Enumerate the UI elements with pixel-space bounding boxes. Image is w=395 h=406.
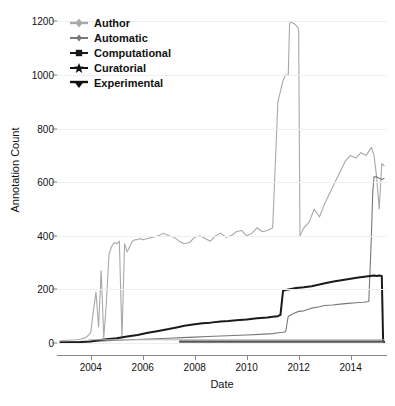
legend-marker-icon xyxy=(68,17,90,29)
legend-marker-icon xyxy=(68,62,90,74)
x-tick-label: 2010 xyxy=(236,362,258,373)
gridline xyxy=(57,289,387,290)
legend-item[interactable]: Curatorial xyxy=(68,61,171,75)
y-tick-label: 200 xyxy=(20,284,54,295)
y-tick-label: 600 xyxy=(20,177,54,188)
chart-figure: Annotation Count 020040060080010001200 2… xyxy=(0,0,395,406)
gridline xyxy=(57,236,387,237)
legend-marker-icon xyxy=(68,32,90,44)
legend-item[interactable]: Computational xyxy=(68,46,171,60)
y-tick-label: 400 xyxy=(20,230,54,241)
y-axis-tick-labels: 020040060080010001200 xyxy=(18,0,54,406)
gridline xyxy=(57,129,387,130)
y-tick-label: 800 xyxy=(20,123,54,134)
y-tick-label: 0 xyxy=(20,338,54,349)
x-tick-label: 2006 xyxy=(132,362,154,373)
legend-label: Computational xyxy=(94,47,171,59)
x-tick-mark xyxy=(299,355,300,360)
x-axis-tick-labels: 200420062008201020122014 xyxy=(57,362,387,378)
x-tick-mark xyxy=(143,355,144,360)
gridline xyxy=(57,182,387,183)
gridline xyxy=(57,343,387,344)
y-tick-label: 1000 xyxy=(20,70,54,81)
x-tick-label: 2004 xyxy=(80,362,102,373)
x-axis-tick-marks xyxy=(57,355,387,361)
legend-label: Author xyxy=(94,17,130,29)
x-tick-label: 2008 xyxy=(184,362,206,373)
legend-label: Automatic xyxy=(94,32,148,44)
legend-label: Experimental xyxy=(94,77,163,89)
legend-marker-icon xyxy=(68,77,90,89)
y-tick-label: 1200 xyxy=(20,16,54,27)
legend-item[interactable]: Automatic xyxy=(68,31,171,45)
legend-item[interactable]: Experimental xyxy=(68,76,171,90)
chart-legend: AuthorAutomaticComputationalCuratorialEx… xyxy=(68,16,171,90)
x-tick-label: 2012 xyxy=(288,362,310,373)
legend-label: Curatorial xyxy=(94,62,146,74)
legend-item[interactable]: Author xyxy=(68,16,171,30)
x-tick-mark xyxy=(91,355,92,360)
x-tick-mark xyxy=(195,355,196,360)
x-tick-label: 2014 xyxy=(339,362,361,373)
series-line xyxy=(60,275,385,343)
x-axis-label: Date xyxy=(57,378,387,390)
x-tick-mark xyxy=(351,355,352,360)
x-tick-mark xyxy=(247,355,248,360)
legend-marker-icon xyxy=(68,47,90,59)
